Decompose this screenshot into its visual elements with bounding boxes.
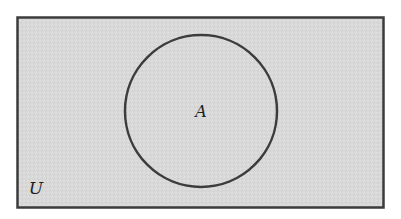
set-a-label: A	[193, 102, 207, 121]
universe-label: U	[29, 178, 44, 198]
venn-diagram: A U	[0, 0, 401, 219]
